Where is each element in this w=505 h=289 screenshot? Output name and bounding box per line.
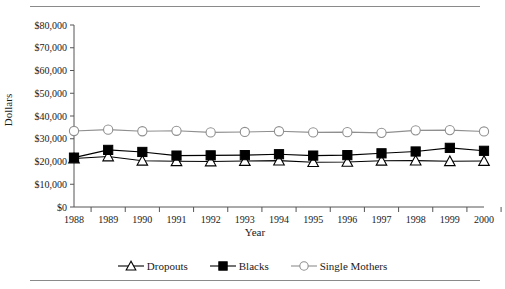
data-marker-circle bbox=[240, 127, 249, 136]
x-axis-tick-label: 1998 bbox=[406, 214, 426, 225]
data-marker-circle bbox=[299, 262, 307, 270]
x-axis-tick-label: 1999 bbox=[440, 214, 460, 225]
data-marker-square bbox=[172, 151, 181, 160]
data-marker-circle bbox=[138, 127, 147, 136]
data-marker-square bbox=[219, 262, 227, 270]
data-marker-circle bbox=[104, 125, 113, 134]
data-marker-square bbox=[206, 151, 215, 160]
series-single-mothers bbox=[69, 125, 488, 137]
y-axis-tick-label: $80,000 bbox=[35, 20, 68, 31]
x-axis-tick-label: 1993 bbox=[235, 214, 255, 225]
x-axis-tick-label: 2000 bbox=[474, 214, 494, 225]
data-marker-circle bbox=[343, 128, 352, 137]
data-marker-circle bbox=[309, 128, 318, 137]
data-marker-square bbox=[445, 143, 454, 152]
x-axis-tick-label: 1994 bbox=[269, 214, 289, 225]
data-marker-square bbox=[411, 147, 420, 156]
x-axis-tick-label: 1996 bbox=[337, 214, 357, 225]
data-marker-circle bbox=[411, 126, 420, 135]
data-marker-circle bbox=[274, 127, 283, 136]
data-marker-square bbox=[343, 151, 352, 160]
data-marker-circle bbox=[445, 126, 454, 135]
figure-container: $0$10,000$20,000$30,000$40,000$50,000$60… bbox=[0, 0, 505, 289]
x-axis-tick-label: 1992 bbox=[201, 214, 221, 225]
data-marker-square bbox=[274, 150, 283, 159]
x-axis-tick-label: 1988 bbox=[64, 214, 84, 225]
y-axis-tick-label: $20,000 bbox=[35, 156, 68, 167]
y-axis-tick-label: $70,000 bbox=[35, 42, 68, 53]
y-axis-tick-label: $40,000 bbox=[35, 111, 68, 122]
data-marker-circle bbox=[377, 128, 386, 137]
x-axis-tick-label: 1995 bbox=[303, 214, 323, 225]
data-marker-circle bbox=[69, 126, 78, 135]
y-axis-tick-label: $0 bbox=[57, 202, 67, 213]
legend-marker-open-triangle-icon bbox=[118, 259, 144, 273]
x-axis-tick-label: 1990 bbox=[132, 214, 152, 225]
legend-marker-open-circle-icon bbox=[291, 259, 317, 273]
chart-legend: DropoutsBlacksSingle Mothers bbox=[0, 256, 505, 276]
line-chart: $0$10,000$20,000$30,000$40,000$50,000$60… bbox=[0, 0, 505, 250]
plot-area: $0$10,000$20,000$30,000$40,000$50,000$60… bbox=[0, 0, 505, 289]
legend-item-single-mothers[interactable]: Single Mothers bbox=[291, 259, 388, 273]
y-axis-tick-label: $10,000 bbox=[35, 179, 68, 190]
x-axis-title: Year bbox=[215, 226, 295, 238]
data-marker-square bbox=[479, 146, 488, 155]
data-marker-circle bbox=[206, 128, 215, 137]
data-marker-square bbox=[309, 151, 318, 160]
data-marker-square bbox=[104, 145, 113, 154]
data-marker-square bbox=[377, 149, 386, 158]
x-axis-tick-label: 1997 bbox=[372, 214, 392, 225]
data-marker-circle bbox=[172, 126, 181, 135]
legend-item-blacks[interactable]: Blacks bbox=[210, 259, 269, 273]
data-marker-circle bbox=[479, 127, 488, 136]
y-axis-tick-label: $50,000 bbox=[35, 88, 68, 99]
legend-marker-filled-square-icon bbox=[210, 259, 236, 273]
data-marker-square bbox=[138, 147, 147, 156]
data-marker-square bbox=[240, 151, 249, 160]
x-axis-tick-label: 1989 bbox=[98, 214, 118, 225]
y-axis-tick-label: $60,000 bbox=[35, 65, 68, 76]
legend-item-label: Single Mothers bbox=[320, 261, 388, 272]
y-axis-tick-label: $30,000 bbox=[35, 133, 68, 144]
data-marker-square bbox=[69, 153, 78, 162]
y-axis-title: Dollars bbox=[2, 80, 14, 140]
legend-item-label: Blacks bbox=[239, 261, 269, 272]
legend-item-label: Dropouts bbox=[147, 261, 188, 272]
legend-item-dropouts[interactable]: Dropouts bbox=[118, 259, 188, 273]
x-axis-tick-label: 1991 bbox=[167, 214, 187, 225]
